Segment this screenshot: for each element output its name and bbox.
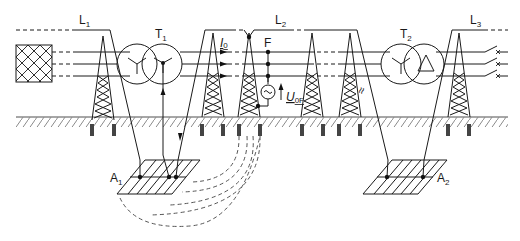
grounding-grid-a1 [117,155,200,194]
source-block [0,45,77,82]
label-a1: A1 [110,171,123,187]
label-t1: T1 [155,27,167,43]
star-winding-icon [392,58,410,74]
label-f: F [264,36,271,50]
label-i0: I0 [220,36,228,50]
label-l3: L3 [470,13,482,29]
current-arrows [220,50,227,79]
label-l1: L1 [79,13,91,29]
fault-location [256,50,284,108]
return-current-paths [120,136,260,226]
label-a2: A2 [437,171,450,187]
label-l2: L2 [275,13,287,29]
labels: L1 T1 L2 I0 F U0F T2 L3 A1 A2 [79,13,482,187]
label-u0f: U0F [286,90,304,105]
grounding-grid-a2 [363,160,447,194]
transformer-t2 [381,44,444,84]
circuit-breakers [485,46,508,78]
transformer-t1 [117,44,182,155]
label-t2: T2 [400,27,412,43]
earth-fault-diagram: ≈ [0,0,520,241]
